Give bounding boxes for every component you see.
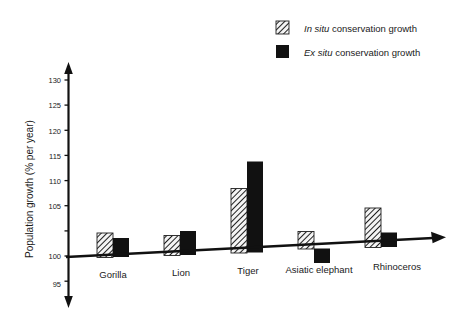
- legend-label-ex-situ-rest: conservation growth: [333, 47, 421, 58]
- y-tick-label: 110: [49, 177, 61, 186]
- y-tick-label: 125: [48, 101, 61, 110]
- y-axis-title: Population growth (% per year): [24, 120, 35, 258]
- x-category-label-tiger: Tiger: [237, 265, 258, 276]
- x-category-label-gorilla: Gorilla: [99, 269, 127, 280]
- bar-group-asiatic-elephant: [298, 232, 330, 264]
- legend-label-in-situ: In situ conservation growth: [304, 23, 417, 34]
- hatched-swatch-icon: [276, 21, 289, 34]
- legend-item-ex-situ: Ex situ conservation growth: [276, 45, 420, 58]
- y-axis-tick-labels: 130 125 120 115 110 105 100 95: [48, 76, 61, 289]
- y-tick-label: 105: [48, 202, 61, 211]
- x-category-label-asiatic-elephant: Asiatic elephant: [285, 264, 352, 275]
- solid-swatch-icon: [276, 45, 289, 58]
- chart-legend: In situ conservation growth Ex situ cons…: [276, 21, 420, 58]
- chart-container: 130 125 120 115 110 105 100 95 Populatio…: [0, 0, 468, 324]
- bar-in-situ-asiatic-elephant: [298, 232, 314, 250]
- bar-ex-situ-asiatic-elephant: [314, 249, 330, 264]
- legend-label-ex-situ: Ex situ conservation growth: [304, 47, 420, 58]
- bar-ex-situ-tiger: [247, 162, 263, 253]
- y-tick-label: 100: [48, 252, 61, 261]
- legend-item-in-situ: In situ conservation growth: [276, 21, 417, 34]
- legend-label-ex-situ-italic: Ex situ: [304, 47, 333, 58]
- y-tick-label: 115: [49, 152, 61, 161]
- y-tick-label: 120: [48, 127, 61, 136]
- y-tick-label: 130: [48, 76, 61, 85]
- x-axis-category-labels: Gorilla Lion Tiger Asiatic elephant Rhin…: [99, 261, 421, 280]
- bar-chart: 130 125 120 115 110 105 100 95 Populatio…: [0, 0, 468, 324]
- x-category-label-lion: Lion: [172, 267, 190, 278]
- y-axis: [64, 62, 73, 308]
- bar-in-situ-tiger: [231, 189, 247, 254]
- legend-label-in-situ-italic: In situ: [304, 23, 330, 34]
- y-tick-label: 95: [53, 280, 61, 289]
- legend-label-in-situ-rest: conservation growth: [329, 23, 417, 34]
- bar-group-tiger: [231, 162, 263, 254]
- x-category-label-rhinoceros: Rhinoceros: [373, 261, 421, 272]
